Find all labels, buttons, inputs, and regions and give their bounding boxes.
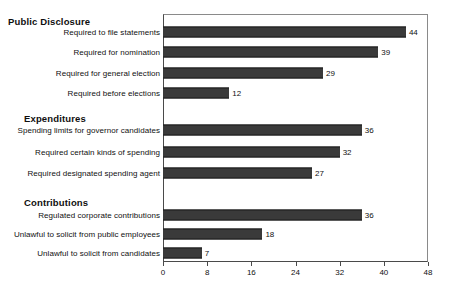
category-label: Required designated spending agent xyxy=(28,169,163,178)
bar-value-label: 29 xyxy=(323,69,335,78)
category-label: Required to file statements xyxy=(63,28,163,37)
bar xyxy=(163,27,406,38)
bar xyxy=(163,47,378,58)
bar xyxy=(163,68,323,79)
bar xyxy=(163,147,340,158)
bar-value-label: 36 xyxy=(362,211,374,220)
category-label: Spending limits for governor candidates xyxy=(18,126,163,135)
x-axis-tick xyxy=(340,262,341,266)
x-axis-tick-label: 48 xyxy=(424,268,433,277)
x-axis-tick-label: 32 xyxy=(335,268,344,277)
x-axis-tick xyxy=(251,262,252,266)
x-axis-tick-label: 24 xyxy=(291,268,300,277)
bar-value-label: 32 xyxy=(340,148,352,157)
x-axis-tick xyxy=(163,262,164,266)
bar-value-label: 36 xyxy=(362,126,374,135)
bar xyxy=(163,88,229,99)
bar xyxy=(163,229,262,240)
bar xyxy=(163,168,312,179)
group-heading: Public Disclosure xyxy=(8,16,90,27)
category-label: Required certain kinds of spending xyxy=(35,148,163,157)
bar-chart: Public DisclosureExpendituresContributio… xyxy=(0,0,450,292)
x-axis-tick-label: 16 xyxy=(247,268,256,277)
bar-value-label: 18 xyxy=(262,230,274,239)
category-label: Required before elections xyxy=(68,89,163,98)
category-label: Unlawful to solicit from candidates xyxy=(37,249,163,258)
x-axis-tick xyxy=(428,262,429,266)
bar xyxy=(163,248,202,259)
bar-value-label: 7 xyxy=(202,249,209,258)
group-heading: Expenditures xyxy=(24,113,86,124)
category-label: Required for general election xyxy=(56,69,163,78)
group-heading: Contributions xyxy=(24,197,88,208)
bar xyxy=(163,210,362,221)
category-label: Unlawful to solicit from public employee… xyxy=(14,230,163,239)
x-axis-tick xyxy=(384,262,385,266)
x-axis-tick-label: 40 xyxy=(379,268,388,277)
bar-value-label: 12 xyxy=(229,89,241,98)
bar-value-label: 44 xyxy=(406,28,418,37)
category-label: Required for nomination xyxy=(73,48,163,57)
bar-value-label: 39 xyxy=(378,48,390,57)
category-label: Regulated corporate contributions xyxy=(38,211,163,220)
x-axis-tick xyxy=(207,262,208,266)
bar-value-label: 27 xyxy=(312,169,324,178)
x-axis-tick-label: 8 xyxy=(205,268,209,277)
x-axis-tick-label: 0 xyxy=(161,268,165,277)
bar xyxy=(163,125,362,136)
x-axis-tick xyxy=(296,262,297,266)
